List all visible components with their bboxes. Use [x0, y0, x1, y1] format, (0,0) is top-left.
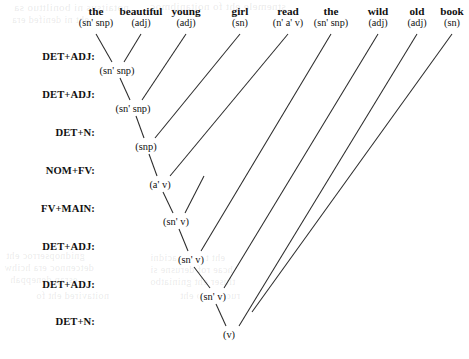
word-surface: the [314, 5, 348, 17]
word-surface: wild [368, 5, 389, 17]
word-category: (sn' snp) [79, 17, 113, 29]
derivation-edge [185, 176, 204, 213]
derived-category-node: (sn' snp) [114, 103, 152, 114]
word-category: (adj) [407, 17, 426, 29]
derived-category-node: (snp) [134, 141, 158, 152]
derived-category-node: (sn' snp) [98, 65, 136, 76]
derivation-edge [155, 34, 240, 138]
word-category: (sn) [440, 17, 464, 29]
derivation-edge [224, 34, 378, 288]
step-label: NOM+FV: [46, 165, 95, 176]
derived-category-node: (sn' v) [199, 291, 228, 302]
derivation-edge [120, 78, 130, 100]
step-label: DET+ADJ: [42, 279, 95, 290]
word-category: (adj) [368, 17, 389, 29]
terminal-word: old(adj) [407, 5, 426, 29]
terminal-word: beautiful(adj) [120, 5, 163, 29]
step-label: FV+MAIN: [41, 203, 95, 214]
derivation-edge [194, 267, 210, 288]
step-label: DET+N: [55, 127, 95, 138]
derivation-edge [149, 154, 157, 176]
derivation-edge [96, 34, 112, 62]
word-surface: beautiful [120, 5, 163, 17]
step-label: DET+ADJ: [42, 241, 95, 252]
word-category: (sn' snp) [314, 17, 348, 29]
derived-category-node: (sn' v) [162, 216, 191, 227]
word-surface: girl [232, 5, 249, 17]
terminal-word: the(sn' snp) [79, 5, 113, 29]
derivation-edge [142, 34, 186, 100]
derivation-edge [163, 192, 173, 213]
terminal-word: read(n' a' v) [273, 5, 303, 29]
word-category: (n' a' v) [273, 17, 303, 29]
word-surface: young [171, 5, 200, 17]
word-category: (adj) [120, 17, 163, 29]
derived-category-node: (a' v) [148, 179, 172, 190]
word-category: (adj) [171, 17, 200, 29]
word-surface: old [407, 5, 426, 17]
parse-diagram-canvas: notaitsus ni bonilttuo sastnemele eht fo… [0, 0, 469, 359]
derivation-edge [179, 229, 188, 251]
derivation-edge [170, 34, 288, 176]
derived-category-node: (sn' v) [177, 254, 206, 265]
step-label: DET+ADJ: [42, 89, 95, 100]
word-surface: book [440, 5, 464, 17]
derivation-edge [239, 34, 417, 326]
derived-category-node: (v) [221, 329, 236, 340]
word-surface: read [273, 5, 303, 17]
word-category: (sn) [232, 17, 249, 29]
terminal-word: the(sn' snp) [314, 5, 348, 29]
step-label: DET+N: [55, 316, 95, 327]
derivation-edge [136, 116, 144, 138]
derivation-edge [252, 34, 452, 312]
step-label: DET+ADJ: [42, 51, 95, 62]
derivation-edge [216, 304, 226, 326]
terminal-word: young(adj) [171, 5, 200, 29]
terminal-word: book(sn) [440, 5, 464, 29]
terminal-word: wild(adj) [368, 5, 389, 29]
word-surface: the [79, 5, 113, 17]
terminal-word: girl(sn) [232, 5, 249, 29]
derivation-edge [124, 34, 141, 62]
